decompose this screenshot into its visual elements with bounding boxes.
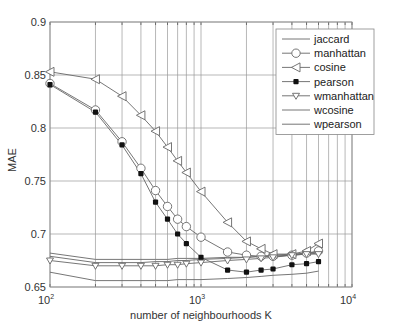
y-axis-ticks: 0.650.70.750.80.850.9 — [25, 16, 46, 293]
x-axis-ticks: 102103104 — [38, 293, 356, 306]
x-axis-label: number of neighbourhoods K — [130, 309, 273, 321]
filled-dot-marker — [270, 266, 275, 271]
triangle-down-marker — [174, 262, 181, 268]
legend-entry-wpearson: wpearson — [313, 118, 362, 130]
filled-dot-marker — [153, 200, 158, 205]
filled-dot-marker — [304, 261, 309, 266]
legend: jaccardmanhattancosinepearsonwmanhattanw… — [276, 29, 374, 134]
triangle-down-marker — [152, 263, 159, 269]
circle-marker — [182, 222, 190, 230]
legend-entry-manhattan: manhattan — [314, 47, 366, 59]
mae-line-chart: 0.650.70.750.80.850.9 102103104 MAE numb… — [0, 0, 397, 333]
filled-dot-marker — [244, 270, 249, 275]
y-tick-label: 0.65 — [25, 281, 46, 293]
y-tick-label: 0.8 — [31, 122, 46, 134]
x-tick-label: 103 — [189, 293, 205, 306]
filled-dot-marker — [47, 82, 52, 87]
x-tick-label: 104 — [340, 293, 356, 306]
filled-dot-marker — [289, 262, 294, 267]
filled-dot-marker — [175, 231, 180, 236]
y-axis-label: MAE — [6, 148, 18, 172]
series-line-wpearson — [50, 271, 319, 281]
filled-dot-marker — [184, 241, 189, 246]
circle-marker — [197, 233, 205, 241]
filled-dot-marker — [165, 217, 170, 222]
filled-dot-marker — [198, 255, 203, 260]
legend-entry-jaccard: jaccard — [313, 33, 349, 45]
legend-entry-pearson: pearson — [314, 76, 354, 88]
triangle-down-marker — [92, 263, 99, 269]
y-tick-label: 0.7 — [31, 228, 46, 240]
filled-dot-marker — [225, 267, 230, 272]
filled-dot-marker — [316, 259, 321, 264]
filled-dot-marker — [138, 171, 143, 176]
legend-entry-wmanhattan: wmanhattan — [313, 90, 374, 102]
filled-dot-marker — [119, 142, 124, 147]
legend-entry-wcosine: wcosine — [313, 104, 354, 116]
circle-marker — [163, 202, 171, 210]
y-tick-label: 0.85 — [25, 69, 46, 81]
triangle-down-marker — [137, 263, 144, 269]
legend-entry-cosine: cosine — [314, 61, 346, 73]
filled-dot-marker — [93, 110, 98, 115]
filled-dot-marker — [258, 267, 263, 272]
circle-marker — [292, 49, 300, 57]
circle-marker — [151, 186, 159, 194]
circle-marker — [173, 215, 181, 223]
x-tick-label: 102 — [38, 293, 54, 306]
triangle-down-marker — [119, 263, 126, 269]
y-tick-label: 0.75 — [25, 175, 46, 187]
circle-marker — [223, 248, 231, 256]
y-tick-label: 0.9 — [31, 16, 46, 28]
filled-dot-marker — [293, 79, 298, 84]
